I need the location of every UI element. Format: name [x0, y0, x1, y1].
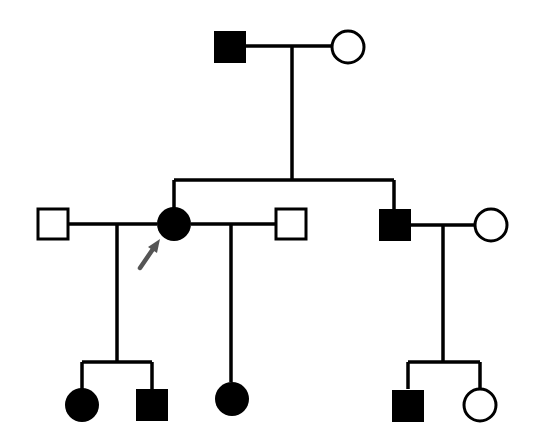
unaffected-female-III-5 — [464, 389, 496, 421]
affected-female-III-3 — [215, 382, 249, 416]
affected-female-III-1 — [65, 388, 99, 422]
unaffected-male-II-1 — [38, 209, 68, 239]
pedigree-chart — [0, 0, 544, 448]
affected-male-I-1 — [214, 31, 246, 63]
affected-male-III-2 — [136, 389, 168, 421]
affected-male-II-4 — [379, 209, 411, 241]
affected-male-III-4 — [392, 390, 424, 422]
proband-arrow-icon — [140, 239, 160, 268]
unaffected-female-I-2 — [332, 31, 364, 63]
unaffected-male-II-3 — [276, 209, 306, 239]
unaffected-female-II-5 — [475, 209, 507, 241]
affected-female-proband-II-2 — [157, 207, 191, 241]
